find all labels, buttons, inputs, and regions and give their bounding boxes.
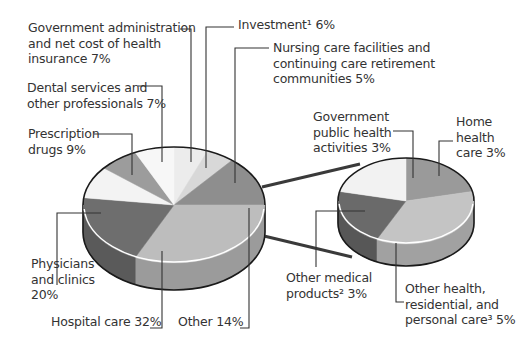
- label-nursing: Nursing care facilities and continuing c…: [273, 40, 435, 87]
- label-investment: Investment¹ 6%: [238, 17, 335, 33]
- label-gov-admin: Government administration and net cost o…: [28, 20, 196, 67]
- main-pie: [83, 147, 265, 290]
- other-breakdown-pie: [338, 158, 474, 266]
- label-other-health: Other health, residential, and personal …: [405, 281, 515, 328]
- label-gov-public: Government public health activities 3%: [313, 109, 392, 156]
- label-prescription: Prescription drugs 9%: [28, 126, 99, 157]
- label-hospital: Hospital care 32%: [51, 314, 161, 330]
- label-physicians: Physicians and clinics 20%: [31, 256, 95, 303]
- label-other: Other 14%: [178, 314, 243, 330]
- label-dental: Dental services and other professionals …: [27, 80, 166, 111]
- label-other-medical: Other medical products² 3%: [286, 270, 372, 301]
- label-home-health: Home health care 3%: [456, 114, 506, 161]
